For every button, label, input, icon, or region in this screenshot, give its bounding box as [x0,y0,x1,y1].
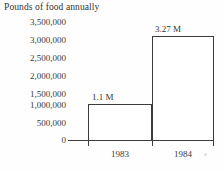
y-tick-label-2500000: 2,500,000 [2,54,66,63]
bar-1983 [88,104,152,141]
y-tick-label-1500000: 1,500,000 [2,90,66,99]
bar-1984 [152,36,214,141]
y-tick-label-3000000: 3,000,000 [2,36,66,45]
x-axis-line [68,140,214,141]
chart-screenshot: Pounds of food annually 3,500,000 3,000,… [0,0,224,171]
x-tick-label-1983: 1983 [88,150,152,159]
bar-value-label-1984: 3.27 M [155,25,181,34]
y-tick-label-1000000: 1,000,000 [2,101,66,110]
scan-artifact [204,153,207,156]
y-tick-label-500000: 500,000 [2,119,66,128]
y-tick-label-0: 0 [2,136,66,145]
y-tick-label-3500000: 3,500,000 [2,18,66,27]
y-tick-label-2000000: 2,000,000 [2,72,66,81]
x-tick-middle [152,141,153,146]
x-tick-right [213,141,214,146]
bar-value-label-1983: 1.1 M [92,93,114,102]
plot-area: 3,500,000 3,000,000 2,500,000 2,000,000 … [0,0,224,171]
x-tick-left [88,141,89,146]
